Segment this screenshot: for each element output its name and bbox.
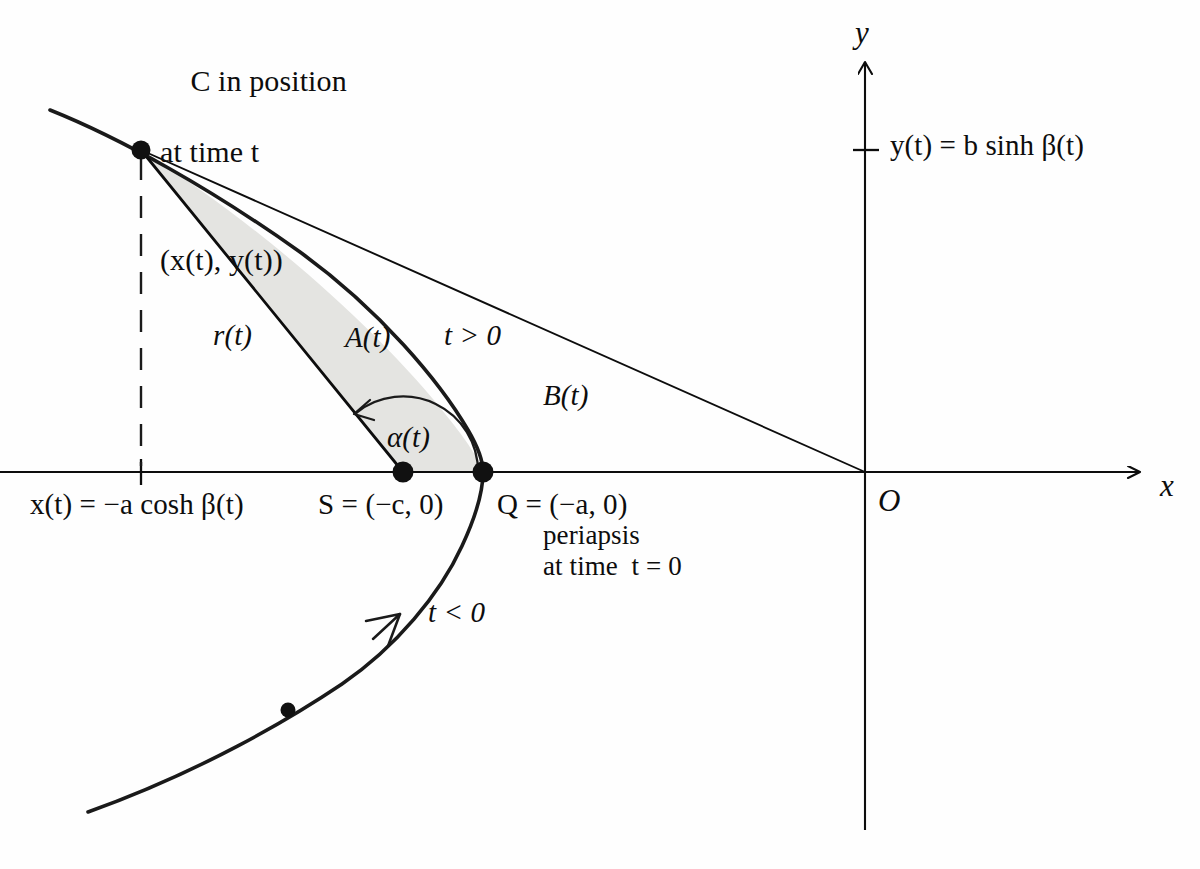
label-focus-s: S = (−c, 0) xyxy=(318,487,444,521)
label-periapsis-word: periapsis xyxy=(543,520,640,552)
label-y-axis: y xyxy=(855,15,869,52)
label-c-position-line2: at time t xyxy=(160,134,347,169)
label-angle-alpha: α(t) xyxy=(387,420,430,454)
label-periapsis-q: Q = (−a, 0) xyxy=(497,487,627,521)
label-area-a: A(t) xyxy=(345,320,391,354)
label-x-of-t-equation: x(t) = −a cosh β(t) xyxy=(30,487,244,521)
label-origin: O xyxy=(878,483,901,520)
label-c-position-line3: (x(t), y(t)) xyxy=(160,242,347,277)
label-periapsis-time: at time t = 0 xyxy=(543,551,682,583)
hyperbolic-orbit-figure: C in position at time t (x(t), y(t)) y x… xyxy=(0,0,1200,869)
label-x-axis: x xyxy=(1160,468,1174,505)
label-c-position-line1: C in position xyxy=(190,64,346,97)
point-past-position xyxy=(281,703,296,718)
label-t-positive: t > 0 xyxy=(444,318,501,352)
label-area-b: B(t) xyxy=(543,378,589,412)
point-Q xyxy=(473,462,494,483)
point-S xyxy=(393,462,414,483)
label-radius-r: r(t) xyxy=(213,318,252,352)
point-C xyxy=(132,141,151,160)
label-y-of-t-equation: y(t) = b sinh β(t) xyxy=(890,128,1084,162)
label-c-position: C in position at time t (x(t), y(t)) xyxy=(160,28,347,349)
label-t-negative: t < 0 xyxy=(428,595,485,629)
